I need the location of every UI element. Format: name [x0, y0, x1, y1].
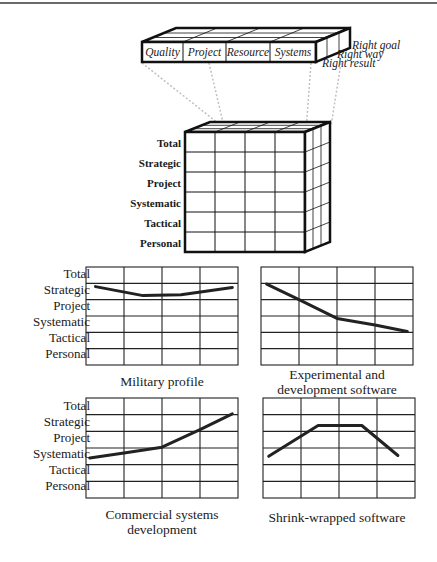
profile-ylabel-systematic: Systematic: [10, 315, 90, 328]
caption-commercial-1: Commercial systems: [86, 507, 238, 522]
caption-commercial-2: development: [86, 522, 238, 537]
profile-ylabel-project-2: Project: [10, 431, 90, 444]
caption-experimental-1: Experimental and: [261, 367, 413, 382]
cube-row-systematic: Systematic: [91, 198, 181, 209]
shrink-wrapped-profile-curve: [269, 426, 398, 457]
profile-ylabel-strategic: Strategic: [10, 283, 90, 296]
caption-experimental-2: development software: [261, 382, 413, 397]
profile-ylabel-strategic-2: Strategic: [10, 415, 90, 428]
cube-row-project: Project: [91, 178, 181, 189]
slab-col-systems: Systems: [270, 46, 316, 58]
cube-row-total: Total: [91, 138, 181, 149]
military-profile-grid: [86, 267, 238, 365]
depth-label-right-result: Right result: [322, 58, 376, 69]
slab-col-project: Project: [183, 46, 226, 58]
profile-ylabel-tactical: Tactical: [10, 331, 90, 344]
slab-col-resource: Resource: [226, 46, 270, 58]
shrink-wrapped-profile-grid: [263, 398, 415, 498]
profile-ylabel-tactical-2: Tactical: [10, 463, 90, 476]
profile-ylabel-personal-2: Personal: [10, 479, 90, 492]
caption-shrink-wrapped: Shrink-wrapped software: [261, 510, 413, 525]
profile-ylabel-project: Project: [10, 299, 90, 312]
caption-military: Military profile: [86, 374, 238, 389]
profile-ylabel-total: Total: [10, 267, 90, 280]
experimental-profile-grid: [261, 267, 413, 365]
profile-ylabel-personal: Personal: [10, 347, 90, 360]
cube-row-tactical: Tactical: [91, 218, 181, 229]
cube-row-personal: Personal: [91, 238, 181, 249]
cube-row-strategic: Strategic: [91, 158, 181, 169]
military-profile-curve: [96, 287, 233, 296]
profile-ylabel-systematic-2: Systematic: [10, 447, 90, 460]
commercial-profile-curve: [90, 414, 233, 458]
slab-col-quality: Quality: [142, 46, 183, 58]
profile-ylabel-total-2: Total: [10, 399, 90, 412]
cube: [185, 122, 330, 252]
